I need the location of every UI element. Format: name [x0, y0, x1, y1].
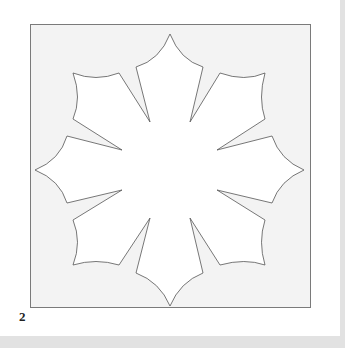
figure-number-label: 2 — [19, 309, 26, 325]
figure-diagram — [0, 0, 345, 348]
